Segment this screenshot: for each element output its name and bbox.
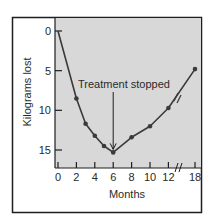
- data-point: [83, 122, 88, 127]
- x-tick-label: 12: [162, 171, 174, 183]
- y-axis-title: Kilograms lost: [21, 57, 33, 126]
- y-tick-label: 0: [45, 25, 51, 37]
- x-tick-label: 18: [189, 171, 201, 183]
- data-point: [74, 96, 79, 101]
- x-tick-label: 2: [73, 171, 79, 183]
- x-tick-label: 8: [129, 171, 135, 183]
- y-tick-label: 5: [45, 65, 51, 77]
- data-point: [93, 133, 98, 138]
- data-point: [193, 67, 198, 72]
- data-point: [102, 144, 107, 149]
- data-point: [129, 135, 134, 140]
- data-point: [166, 106, 171, 111]
- x-tick-label: 0: [55, 171, 61, 183]
- weight-loss-chart: 051015 02468101218 Treatment stopped Mon…: [0, 0, 216, 222]
- x-axis-title: Months: [109, 188, 146, 200]
- x-tick-label: 4: [92, 171, 98, 183]
- x-tick-label: 6: [110, 171, 116, 183]
- y-tick-label: 10: [39, 104, 51, 116]
- data-point: [111, 150, 116, 155]
- annotation-text: Treatment stopped: [78, 78, 170, 90]
- x-tick-label: 10: [144, 171, 156, 183]
- y-tick-label: 15: [39, 144, 51, 156]
- data-point: [148, 124, 153, 129]
